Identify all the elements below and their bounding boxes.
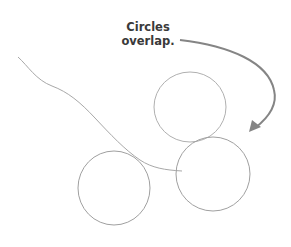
- curved-arrow: [180, 40, 275, 128]
- circle-top: [154, 72, 226, 142]
- circle-bottom-right: [176, 137, 250, 211]
- annotation-line-1: Circles: [110, 20, 186, 34]
- circle-bottom-left: [78, 151, 150, 225]
- annotation-label: Circles overlap.: [110, 20, 186, 48]
- annotation-line-2: overlap.: [110, 34, 186, 48]
- arrowhead-icon: [249, 120, 261, 132]
